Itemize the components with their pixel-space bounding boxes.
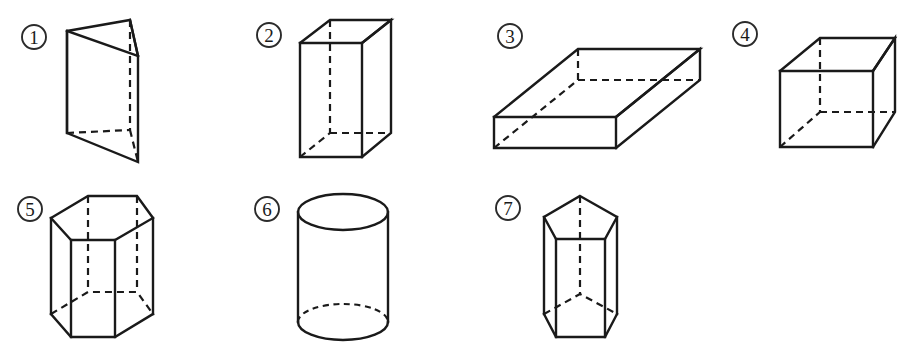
cylinder-bottom-front-arc: [298, 322, 388, 340]
figure-badge-2-label: 2: [264, 25, 274, 46]
cube-right-face: [873, 38, 895, 147]
figure-hexagonal-prism: 5: [18, 196, 153, 337]
figure-triangular-prism: 1: [22, 20, 138, 162]
figure-badge-5-label: 5: [25, 199, 35, 220]
figure-badge-1-label: 1: [29, 27, 39, 48]
figure-cube: 4: [733, 22, 895, 147]
cylinder-bottom-back-arc: [298, 304, 388, 322]
hex-bottom-front-edges: [51, 314, 153, 337]
cube-top-face: [780, 38, 895, 71]
box2-hidden-bottom-left: [300, 133, 330, 157]
figure-badge-7-label: 7: [503, 198, 513, 219]
triangular-prism-hidden-bottom-left: [67, 130, 130, 133]
triangular-prism-top-front-edge: [67, 31, 138, 56]
figure-cylinder: 6: [255, 194, 388, 340]
box3-top-face: [494, 49, 700, 117]
box3-front-face: [494, 117, 616, 148]
figure-rectangular-prism-upright: 2: [257, 20, 391, 157]
box2-right-face: [362, 20, 391, 157]
hex-hidden-bottom-back-edges: [51, 292, 153, 314]
cylinder-top-ellipse: [298, 194, 388, 230]
figure-badge-4-label: 4: [740, 24, 750, 45]
figure-sheet: 1 2: [0, 0, 903, 355]
box3-right-face: [616, 49, 700, 148]
box3-hidden-bottom-left: [494, 80, 578, 148]
triangular-prism-silhouette: [67, 20, 138, 162]
figure-badge-3-label: 3: [505, 26, 515, 47]
solids-diagram: 1 2: [0, 0, 903, 355]
figure-pentagonal-prism: 7: [496, 196, 617, 337]
figure-rectangular-prism-flat: 3: [494, 24, 700, 148]
cube-hidden-bottom-left: [780, 112, 820, 147]
figure-badge-6-label: 6: [262, 199, 272, 220]
triangular-prism-top-right-edge: [130, 20, 138, 56]
